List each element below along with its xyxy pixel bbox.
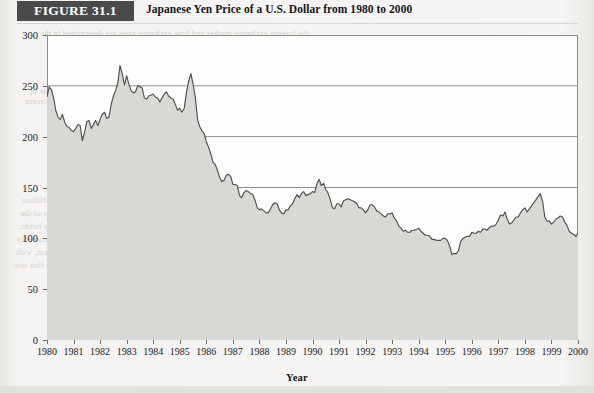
x-axis-title: Year: [0, 372, 594, 383]
x-axis-tick-mark: [127, 340, 128, 344]
y-axis-tick-mark: [43, 289, 47, 290]
x-axis-tick-mark: [498, 340, 499, 344]
figure-header: FIGURE 31.1 Japanese Yen Price of a U.S.…: [0, 0, 594, 22]
x-axis-tick-label: 1987: [223, 346, 243, 357]
x-axis-tick-mark: [259, 340, 260, 344]
x-axis-tick-mark: [419, 340, 420, 344]
y-axis-tick-label: 250: [4, 80, 38, 91]
x-axis-tick-label: 1994: [409, 346, 429, 357]
x-axis-tick-label: 1991: [329, 346, 349, 357]
page-bottom-band: [0, 386, 594, 393]
chart-plot-area: [47, 35, 578, 340]
x-axis-tick-mark: [100, 340, 101, 344]
x-axis-tick-mark: [366, 340, 367, 344]
x-axis-tick-mark: [313, 340, 314, 344]
x-axis-tick-mark: [206, 340, 207, 344]
x-axis-tick-label: 1992: [356, 346, 376, 357]
header-divider: [17, 23, 578, 24]
x-axis-tick-mark: [551, 340, 552, 344]
y-axis-tick-mark: [43, 35, 47, 36]
chart-svg: [47, 35, 578, 340]
y-axis-tick-label: 300: [4, 30, 38, 41]
x-axis-tick-label: 1983: [117, 346, 137, 357]
x-axis-tick-label: 1988: [249, 346, 269, 357]
x-axis-tick-label: 1996: [462, 346, 482, 357]
area-fill: [47, 66, 578, 341]
y-axis-tick-mark: [43, 86, 47, 87]
y-axis-tick-label: 150: [4, 182, 38, 193]
x-axis-tick-label: 1998: [515, 346, 535, 357]
x-axis-tick-label: 1995: [435, 346, 455, 357]
x-axis-tick-mark: [74, 340, 75, 344]
y-axis-tick-label: 200: [4, 131, 38, 142]
x-axis-tick-label: 1984: [143, 346, 163, 357]
x-axis-tick-mark: [578, 340, 579, 344]
x-axis-tick-label: 1989: [276, 346, 296, 357]
y-axis-tick-label: 100: [4, 233, 38, 244]
x-axis-tick-label: 1985: [170, 346, 190, 357]
x-axis-tick-mark: [180, 340, 181, 344]
y-axis-tick-mark: [43, 238, 47, 239]
x-axis-tick-mark: [153, 340, 154, 344]
x-axis-tick-mark: [47, 340, 48, 344]
x-axis-tick-label: 1981: [64, 346, 84, 357]
figure-page: 31.2 Foreign Exchange Markets and Exchan…: [0, 0, 594, 393]
x-axis-tick-mark: [233, 340, 234, 344]
x-axis-tick-label: 1986: [196, 346, 216, 357]
x-axis-tick-label: 1990: [303, 346, 323, 357]
figure-number-badge: FIGURE 31.1: [17, 1, 134, 21]
x-axis-tick-label: 1999: [541, 346, 561, 357]
x-axis-tick-mark: [472, 340, 473, 344]
x-axis-tick-label: 1982: [90, 346, 110, 357]
x-axis-tick-mark: [286, 340, 287, 344]
x-axis-tick-label: 1993: [382, 346, 402, 357]
x-axis-tick-mark: [445, 340, 446, 344]
x-axis-tick-label: 1997: [488, 346, 508, 357]
x-axis-tick-mark: [339, 340, 340, 344]
y-axis-tick-mark: [43, 137, 47, 138]
x-axis-tick-label: 2000: [568, 346, 588, 357]
y-axis-tick-label: 0: [4, 335, 38, 346]
y-axis-tick-mark: [43, 188, 47, 189]
x-axis-tick-mark: [525, 340, 526, 344]
y-axis-tick-label: 50: [4, 284, 38, 295]
figure-caption: Japanese Yen Price of a U.S. Dollar from…: [146, 3, 412, 15]
x-axis-tick-label: 1980: [37, 346, 57, 357]
x-axis-tick-mark: [392, 340, 393, 344]
